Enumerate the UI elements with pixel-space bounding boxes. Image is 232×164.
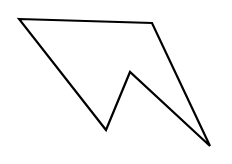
concave-pentagon-shape bbox=[19, 19, 210, 146]
diagram-canvas bbox=[0, 0, 232, 164]
